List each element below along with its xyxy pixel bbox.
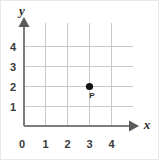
x-tick-labels: 0 1 2 3 4	[19, 138, 116, 150]
y-tick-labels: 4 3 2 1	[10, 41, 17, 113]
x-axis-arrowhead-icon	[129, 121, 139, 132]
coordinate-plane-figure: y x 0 1 2 3 4 4 3 2 1 P	[0, 0, 159, 160]
x-tick-label-2: 2	[64, 138, 70, 150]
coordinate-plane-svg: y x 0 1 2 3 4 4 3 2 1 P	[1, 1, 159, 160]
y-tick-label-2: 2	[10, 81, 16, 93]
grid-lines-vertical	[46, 23, 112, 125]
data-point-p-dot	[86, 83, 93, 90]
x-tick-label-1: 1	[42, 138, 48, 150]
y-tick-label-4: 4	[10, 41, 17, 53]
data-point-p-group: P	[86, 83, 95, 100]
data-point-p-label: P	[89, 91, 95, 100]
y-tick-label-1: 1	[10, 101, 16, 113]
grid-lines-horizontal	[24, 47, 133, 107]
y-tick-label-3: 3	[10, 61, 16, 73]
x-tick-label-4: 4	[108, 138, 115, 150]
x-tick-label-0: 0	[19, 138, 25, 150]
y-axis-label: y	[17, 3, 25, 18]
x-axis-label: x	[143, 117, 151, 132]
x-tick-label-3: 3	[86, 138, 92, 150]
y-axis-arrowhead-icon	[19, 17, 30, 27]
axes	[19, 17, 140, 132]
